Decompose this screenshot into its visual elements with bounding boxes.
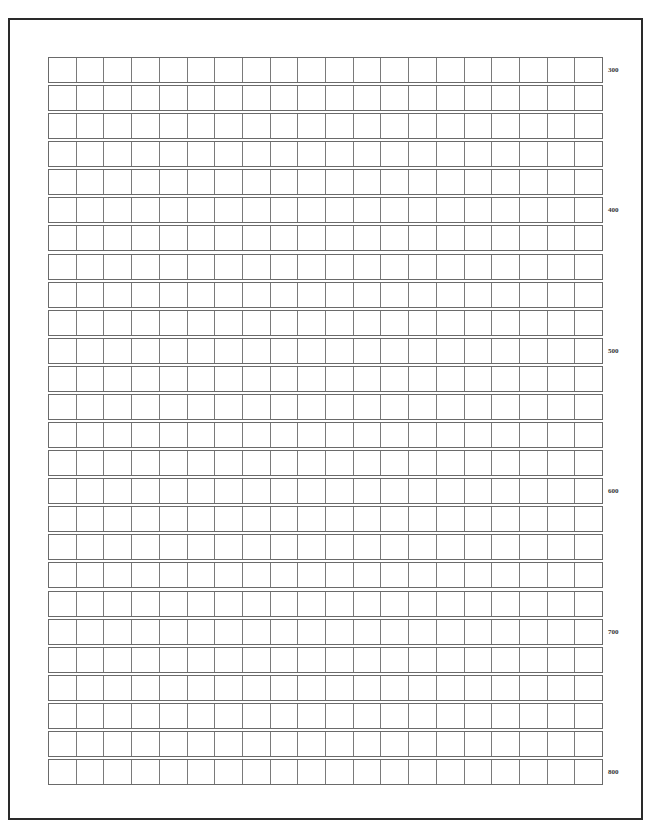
grid-cell[interactable] <box>132 676 160 700</box>
grid-cell[interactable] <box>188 311 216 335</box>
grid-cell[interactable] <box>160 311 188 335</box>
grid-cell[interactable] <box>520 676 548 700</box>
grid-cell[interactable] <box>548 367 576 391</box>
grid-cell[interactable] <box>215 170 243 194</box>
grid-cell[interactable] <box>160 704 188 728</box>
grid-cell[interactable] <box>49 451 77 475</box>
grid-cell[interactable] <box>465 760 493 784</box>
grid-cell[interactable] <box>492 283 520 307</box>
grid-cell[interactable] <box>215 507 243 531</box>
grid-cell[interactable] <box>381 86 409 110</box>
grid-cell[interactable] <box>188 732 216 756</box>
grid-cell[interactable] <box>104 283 132 307</box>
grid-cell[interactable] <box>298 114 326 138</box>
grid-cell[interactable] <box>326 479 354 503</box>
grid-cell[interactable] <box>215 423 243 447</box>
grid-cell[interactable] <box>243 563 271 587</box>
grid-cell[interactable] <box>160 620 188 644</box>
grid-cell[interactable] <box>132 648 160 672</box>
grid-cell[interactable] <box>326 311 354 335</box>
grid-cell[interactable] <box>381 479 409 503</box>
grid-cell[interactable] <box>437 283 465 307</box>
grid-cell[interactable] <box>160 86 188 110</box>
grid-cell[interactable] <box>77 704 105 728</box>
grid-cell[interactable] <box>409 339 437 363</box>
grid-cell[interactable] <box>215 255 243 279</box>
grid-cell[interactable] <box>215 592 243 616</box>
grid-cell[interactable] <box>132 563 160 587</box>
grid-cell[interactable] <box>160 142 188 166</box>
grid-cell[interactable] <box>104 311 132 335</box>
grid-cell[interactable] <box>243 367 271 391</box>
grid-cell[interactable] <box>575 592 602 616</box>
grid-cell[interactable] <box>49 563 77 587</box>
grid-cell[interactable] <box>409 704 437 728</box>
grid-cell[interactable] <box>409 226 437 250</box>
grid-cell[interactable] <box>437 451 465 475</box>
grid-cell[interactable] <box>160 507 188 531</box>
grid-cell[interactable] <box>492 451 520 475</box>
grid-cell[interactable] <box>437 86 465 110</box>
grid-cell[interactable] <box>215 451 243 475</box>
grid-cell[interactable] <box>77 170 105 194</box>
grid-cell[interactable] <box>104 339 132 363</box>
grid-cell[interactable] <box>160 423 188 447</box>
grid-cell[interactable] <box>271 732 299 756</box>
grid-cell[interactable] <box>492 676 520 700</box>
grid-cell[interactable] <box>298 704 326 728</box>
grid-cell[interactable] <box>354 648 382 672</box>
grid-cell[interactable] <box>548 226 576 250</box>
grid-cell[interactable] <box>243 58 271 82</box>
grid-cell[interactable] <box>520 367 548 391</box>
grid-cell[interactable] <box>243 311 271 335</box>
grid-cell[interactable] <box>49 620 77 644</box>
grid-cell[interactable] <box>104 704 132 728</box>
grid-cell[interactable] <box>354 423 382 447</box>
grid-cell[interactable] <box>437 676 465 700</box>
grid-cell[interactable] <box>77 451 105 475</box>
grid-cell[interactable] <box>520 479 548 503</box>
grid-cell[interactable] <box>520 423 548 447</box>
grid-cell[interactable] <box>132 507 160 531</box>
grid-cell[interactable] <box>243 226 271 250</box>
grid-cell[interactable] <box>215 58 243 82</box>
grid-cell[interactable] <box>104 114 132 138</box>
grid-cell[interactable] <box>132 339 160 363</box>
grid-cell[interactable] <box>354 563 382 587</box>
grid-cell[interactable] <box>492 592 520 616</box>
grid-cell[interactable] <box>104 676 132 700</box>
grid-cell[interactable] <box>132 170 160 194</box>
grid-cell[interactable] <box>132 620 160 644</box>
grid-cell[interactable] <box>520 704 548 728</box>
grid-cell[interactable] <box>575 86 602 110</box>
grid-cell[interactable] <box>49 311 77 335</box>
grid-cell[interactable] <box>188 395 216 419</box>
grid-cell[interactable] <box>354 592 382 616</box>
grid-cell[interactable] <box>465 86 493 110</box>
grid-cell[interactable] <box>243 255 271 279</box>
grid-cell[interactable] <box>298 535 326 559</box>
grid-cell[interactable] <box>409 367 437 391</box>
grid-cell[interactable] <box>271 676 299 700</box>
grid-cell[interactable] <box>354 760 382 784</box>
grid-cell[interactable] <box>548 507 576 531</box>
grid-cell[interactable] <box>326 339 354 363</box>
grid-cell[interactable] <box>104 423 132 447</box>
grid-cell[interactable] <box>160 451 188 475</box>
grid-cell[interactable] <box>77 114 105 138</box>
grid-cell[interactable] <box>326 423 354 447</box>
grid-cell[interactable] <box>77 592 105 616</box>
grid-cell[interactable] <box>160 198 188 222</box>
grid-cell[interactable] <box>354 311 382 335</box>
grid-cell[interactable] <box>548 451 576 475</box>
grid-cell[interactable] <box>492 170 520 194</box>
grid-cell[interactable] <box>381 563 409 587</box>
grid-cell[interactable] <box>437 704 465 728</box>
grid-cell[interactable] <box>132 760 160 784</box>
grid-cell[interactable] <box>492 535 520 559</box>
grid-cell[interactable] <box>437 226 465 250</box>
grid-cell[interactable] <box>215 704 243 728</box>
grid-cell[interactable] <box>326 367 354 391</box>
grid-cell[interactable] <box>49 226 77 250</box>
grid-cell[interactable] <box>465 58 493 82</box>
